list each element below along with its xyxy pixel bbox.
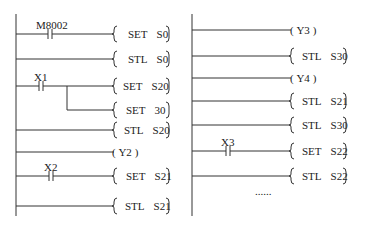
- coil-open-paren: (: [112, 146, 116, 158]
- instruction-arg: 30: [155, 104, 166, 116]
- instruction-op: SET: [302, 145, 322, 157]
- instruction-op: SET: [123, 80, 143, 92]
- contact-label-m8002: M8002: [36, 19, 68, 31]
- continuation-ellipsis: ......: [255, 185, 272, 197]
- contact-label-x3: X3: [221, 136, 234, 148]
- instruction-arg: S21: [154, 200, 171, 212]
- instruction-arg: S20: [152, 80, 169, 92]
- instruction-op: STL: [128, 53, 148, 65]
- coil-y3: ( Y3 ): [290, 24, 316, 36]
- instruction-arg: S30: [331, 50, 348, 62]
- coil-label: Y3: [296, 24, 309, 36]
- coil-close-paren: ): [313, 72, 317, 84]
- coil-close-paren: ): [135, 146, 139, 158]
- instruction-arg: S22: [331, 170, 348, 182]
- instruction-arg: S30: [331, 119, 348, 131]
- instruction-set-s21: SETS21: [126, 170, 172, 182]
- instruction-op: SET: [126, 170, 146, 182]
- instruction-op: STL: [125, 200, 145, 212]
- instruction-stl-s0: STLS0: [128, 53, 168, 65]
- instruction-arg: S22: [331, 145, 348, 157]
- instruction-op: STL: [302, 119, 322, 131]
- coil-close-paren: ): [313, 24, 317, 36]
- contact-label-x2: X2: [44, 161, 57, 173]
- instruction-op: STL: [124, 124, 144, 136]
- coil-open-paren: (: [290, 24, 294, 36]
- instruction-arg: S0: [157, 28, 169, 40]
- instruction-stl-s30-b: STLS30: [302, 119, 348, 131]
- instruction-op: STL: [302, 170, 322, 182]
- instruction-op: SET: [126, 104, 146, 116]
- instruction-set-s20: SETS20: [123, 80, 169, 92]
- instruction-stl-s30: STLS30: [302, 50, 348, 62]
- coil-open-paren: (: [290, 72, 294, 84]
- instruction-stl-s21-right: STLS21: [302, 95, 348, 107]
- instruction-op: STL: [302, 50, 322, 62]
- coil-label: Y4: [296, 72, 309, 84]
- instruction-arg: S21: [331, 95, 348, 107]
- instruction-set-s0: SETS0: [128, 28, 168, 40]
- instruction-set-30: SET30: [126, 104, 166, 116]
- instruction-op: SET: [128, 28, 148, 40]
- instruction-stl-s20: STLS20: [124, 124, 170, 136]
- instruction-arg: S21: [155, 170, 172, 182]
- instruction-stl-s21: STLS21: [125, 200, 171, 212]
- instruction-arg: S0: [157, 53, 169, 65]
- contact-label-x1: X1: [34, 71, 47, 83]
- instruction-set-s22: SETS22: [302, 145, 348, 157]
- coil-y4: ( Y4 ): [290, 72, 316, 84]
- coil-y2: ( Y2 ): [112, 146, 138, 158]
- coil-label: Y2: [118, 146, 131, 158]
- instruction-arg: S20: [153, 124, 170, 136]
- instruction-op: STL: [302, 95, 322, 107]
- instruction-stl-s22: STLS22: [302, 170, 348, 182]
